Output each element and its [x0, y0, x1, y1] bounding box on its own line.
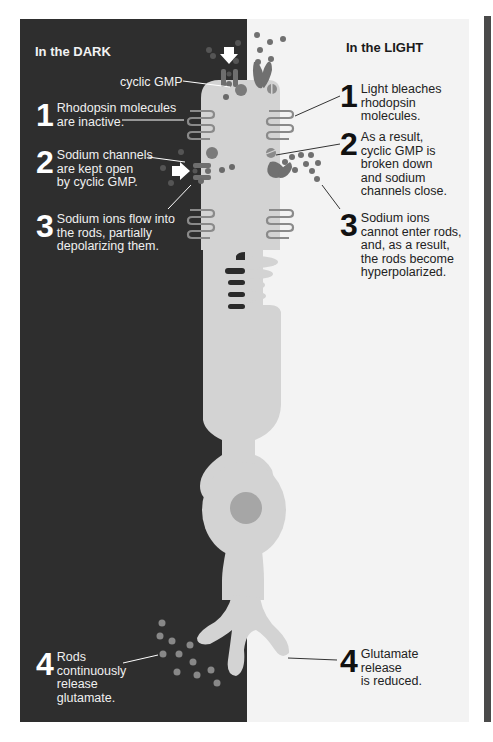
light-title: In the LIGHT	[346, 40, 423, 55]
step-number: 3	[36, 212, 54, 240]
step-number: 3	[340, 211, 358, 239]
step-text: As a result, cyclic GMP is broken down a…	[361, 130, 447, 199]
light-step-1: 1 Light bleaches rhodopsin molecules.	[340, 82, 441, 124]
step-text: Sodium ions flow into the rods, partiall…	[57, 212, 175, 254]
step-number: 2	[36, 148, 54, 176]
dark-step-2: 2 Sodium channels are kept open by cycli…	[36, 148, 153, 190]
dark-step-4: 4 Rods continuously release glutamate.	[36, 650, 126, 705]
step-text: Light bleaches rhodopsin molecules.	[361, 82, 442, 124]
dark-step-1: 1 Rhodopsin molecules are inactive.	[36, 101, 176, 129]
dark-step-3: 3 Sodium ions flow into the rods, partia…	[36, 212, 175, 254]
dark-title: In the DARK	[35, 44, 111, 59]
light-step-2: 2 As a result, cyclic GMP is broken down…	[340, 130, 447, 199]
step-number: 1	[36, 101, 54, 129]
light-step-4: 4 Glutamate release is reduced.	[340, 647, 422, 689]
step-number: 4	[340, 647, 358, 675]
cgmp-icon	[235, 84, 247, 96]
step-number: 2	[340, 130, 358, 158]
cgmp-label: cyclic GMP	[120, 75, 183, 89]
step-text: Sodium ions cannot enter rods, and, as a…	[361, 211, 462, 280]
step-number: 4	[36, 650, 54, 678]
step-text: Sodium channels are kept open by cyclic …	[57, 148, 153, 190]
rod-cell-diagram: In the DARK In the LIGHT cyclic GMP 1 Rh…	[0, 0, 493, 742]
light-step-3: 3 Sodium ions cannot enter rods, and, as…	[340, 211, 462, 280]
right-edge-bar	[484, 16, 491, 722]
step-text: Glutamate release is reduced.	[361, 647, 422, 689]
nucleus-icon	[230, 492, 262, 524]
step-text: Rhodopsin molecules are inactive.	[57, 101, 177, 129]
step-number: 1	[340, 82, 358, 110]
step-text: Rods continuously release glutamate.	[57, 650, 127, 705]
cgmp-icon-mid	[206, 147, 218, 159]
